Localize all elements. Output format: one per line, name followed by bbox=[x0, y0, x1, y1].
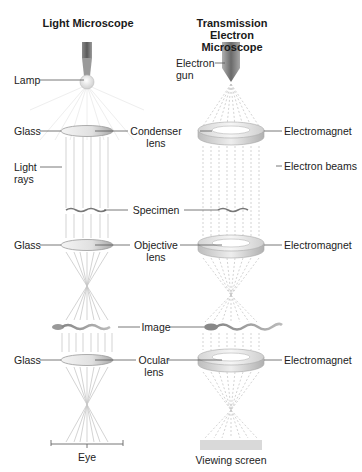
viewing-screen-icon bbox=[200, 440, 262, 450]
label-electron-gun-line1: Electron bbox=[176, 57, 215, 69]
title-light-microscope: Light Microscope bbox=[38, 17, 138, 29]
label-eye: Eye bbox=[67, 451, 107, 463]
title-tem: Transmission Electron Microscope bbox=[176, 17, 288, 53]
label-electron-gun-line2: gun bbox=[176, 69, 215, 81]
label-light-rays-line2: rays bbox=[14, 173, 37, 185]
objective-converging-beams bbox=[203, 258, 259, 322]
label-condenser-line2: lens bbox=[128, 137, 184, 149]
label-electromagnet-1: Electromagnet bbox=[284, 125, 352, 137]
label-lamp: Lamp bbox=[14, 74, 40, 86]
label-condenser-lens: Condenser lens bbox=[128, 125, 184, 149]
label-viewing-screen: Viewing screen bbox=[190, 454, 272, 466]
label-glass-condenser: Glass bbox=[14, 125, 41, 137]
title-tem-line2: Microscope bbox=[176, 41, 288, 53]
specimen-tem-icon bbox=[218, 209, 248, 212]
label-specimen: Specimen bbox=[128, 204, 184, 216]
microscope-comparison-diagram: Light Microscope Transmission Electron M… bbox=[0, 0, 362, 472]
label-glass-objective: Glass bbox=[14, 239, 41, 251]
image-tem-icon bbox=[204, 324, 282, 331]
objective-electromagnet-icon bbox=[198, 235, 264, 258]
label-electromagnet-2: Electromagnet bbox=[284, 239, 352, 251]
label-glass-ocular: Glass bbox=[14, 354, 41, 366]
projector-electromagnet-icon bbox=[198, 349, 264, 372]
label-electromagnet-3: Electromagnet bbox=[284, 354, 352, 366]
gun-diverging-beams bbox=[203, 84, 259, 126]
label-ocular-line2: lens bbox=[136, 366, 172, 378]
label-ocular-lens: Ocular lens bbox=[136, 354, 172, 378]
label-image: Image bbox=[140, 321, 172, 333]
label-objective-lens: Objective lens bbox=[130, 239, 182, 263]
parallel-electron-beams bbox=[203, 146, 259, 236]
projector-converging-beams bbox=[203, 372, 259, 438]
label-ocular-line1: Ocular bbox=[136, 354, 172, 366]
ocular-converging-rays bbox=[66, 367, 108, 442]
label-objective-line1: Objective bbox=[130, 239, 182, 251]
condenser-electromagnet-icon bbox=[198, 122, 264, 145]
label-objective-line2: lens bbox=[130, 251, 182, 263]
label-light-rays: Light rays bbox=[14, 161, 37, 185]
objective-converging-rays bbox=[66, 252, 108, 320]
title-tem-line1: Transmission Electron bbox=[176, 17, 288, 41]
label-light-rays-line1: Light bbox=[14, 161, 37, 173]
label-electron-gun: Electron gun bbox=[176, 57, 215, 81]
parallel-light-rays bbox=[66, 137, 108, 208]
label-electron-beams: Electron beams bbox=[284, 160, 357, 172]
lamp-icon bbox=[80, 42, 94, 89]
label-condenser-line1: Condenser bbox=[128, 125, 184, 137]
specimen-light-icon bbox=[66, 209, 106, 212]
image-light-icon bbox=[52, 324, 110, 330]
